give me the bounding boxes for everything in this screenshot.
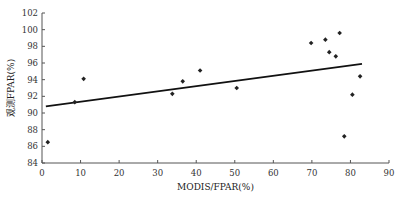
x-tick-label: 60 bbox=[268, 168, 279, 178]
y-tick-label: 90 bbox=[27, 108, 38, 118]
x-tick-label: 0 bbox=[39, 168, 44, 178]
y-tick-label: 88 bbox=[27, 125, 38, 135]
data-point bbox=[198, 68, 203, 73]
data-point bbox=[81, 77, 86, 82]
data-point bbox=[337, 31, 342, 36]
data-point bbox=[333, 54, 338, 59]
x-tick-label: 80 bbox=[345, 168, 356, 178]
data-point bbox=[309, 41, 314, 46]
y-tick-label: 96 bbox=[27, 58, 38, 68]
data-point bbox=[72, 100, 77, 105]
y-tick-label: 92 bbox=[27, 91, 38, 101]
data-point bbox=[180, 79, 185, 84]
data-point bbox=[327, 50, 332, 55]
x-tick-label: 30 bbox=[152, 168, 163, 178]
data-point bbox=[234, 86, 239, 91]
y-tick-label: 98 bbox=[27, 41, 38, 51]
x-tick-label: 40 bbox=[191, 168, 202, 178]
x-tick-label: 90 bbox=[384, 168, 395, 178]
data-point bbox=[350, 92, 355, 97]
data-point bbox=[323, 37, 328, 42]
x-axis-label: MODIS/FPAR(%) bbox=[177, 182, 254, 192]
x-tick-label: 10 bbox=[75, 168, 86, 178]
y-tick-label: 84 bbox=[27, 158, 38, 168]
y-tick-label: 100 bbox=[22, 25, 38, 35]
y-tick-label: 94 bbox=[27, 75, 38, 85]
y-axis-label: 观测FPAR(%) bbox=[6, 59, 16, 117]
trend-line bbox=[46, 64, 362, 107]
data-point bbox=[358, 74, 363, 79]
y-tick-label: 102 bbox=[22, 8, 38, 18]
scatter-chart: 0102030405060708090848688909294969810010… bbox=[0, 0, 402, 205]
x-tick-label: 20 bbox=[114, 168, 125, 178]
data-point bbox=[170, 92, 175, 97]
y-tick-label: 86 bbox=[27, 141, 38, 151]
x-tick-label: 50 bbox=[229, 168, 240, 178]
data-point bbox=[45, 140, 50, 145]
x-tick-label: 70 bbox=[306, 168, 317, 178]
data-point bbox=[342, 134, 347, 139]
